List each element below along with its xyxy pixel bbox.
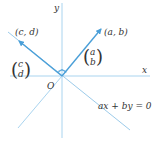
left-paren-icon: ( [83,46,90,67]
origin-label: O [47,81,55,91]
ab-direction-line [18,76,62,128]
point-cd-label: (c, d) [15,27,39,37]
point-ab-label: (a, b) [104,27,128,37]
left-paren-icon: ( [11,59,18,80]
y-axis-label: y [53,3,60,13]
coordinate-diagram: y x O (a, b) (c, d) ( a b ) ( c d ) ax +… [0,0,158,142]
x-axis-label: x [142,65,147,75]
line-equation-label: ax + by = 0 [98,101,152,111]
right-paren-icon: ) [24,59,31,80]
right-paren-icon: ) [96,46,103,67]
column-vector-ab: ( a b ) [83,46,103,67]
column-cd-top: c [18,59,23,69]
column-vector-cd: ( c d ) [11,59,31,80]
column-ab-top: a [90,47,95,57]
